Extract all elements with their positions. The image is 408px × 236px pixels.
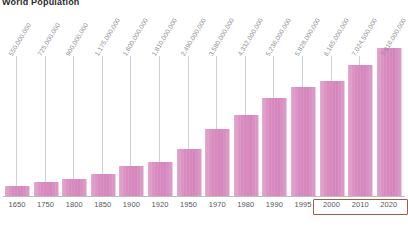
leader-line [359, 56, 360, 65]
leader-line [130, 56, 131, 166]
leader-line [216, 56, 217, 129]
leader-line [188, 56, 189, 149]
x-axis-label-1990: 1990 [259, 200, 289, 209]
leader-line [245, 56, 246, 115]
x-axis-label-1850: 1850 [88, 200, 118, 209]
leader-line [159, 56, 160, 162]
x-axis-label-1970: 1970 [202, 200, 232, 209]
x-axis-label-1750: 1750 [31, 200, 61, 209]
leader-line [45, 56, 46, 182]
bar[interactable] [34, 182, 58, 196]
x-axis-label-2000: 2000 [317, 200, 347, 209]
bar[interactable] [377, 48, 401, 196]
bar[interactable] [234, 115, 258, 196]
leader-line [73, 56, 74, 179]
leader-line [302, 56, 303, 87]
bar[interactable] [119, 166, 143, 196]
bar[interactable] [205, 129, 229, 196]
x-axis-label-2020: 2020 [374, 200, 404, 209]
x-axis-label-1920: 1920 [145, 200, 175, 209]
bar[interactable] [91, 174, 115, 196]
x-axis-label-1900: 1900 [116, 200, 146, 209]
bar[interactable] [291, 87, 315, 196]
bar[interactable] [177, 149, 201, 196]
bar[interactable] [5, 186, 29, 196]
bar[interactable] [320, 81, 344, 196]
leader-line [273, 56, 274, 98]
bar[interactable] [148, 162, 172, 196]
x-axis-label-1950: 1950 [174, 200, 204, 209]
x-axis-label-1995: 1995 [288, 200, 318, 209]
x-axis-label-1800: 1800 [59, 200, 89, 209]
leader-line [102, 56, 103, 174]
x-axis-label-1980: 1980 [231, 200, 261, 209]
x-axis-baseline [3, 196, 405, 197]
x-axis-label-1650: 1650 [2, 200, 32, 209]
bar-chart: 1650175018001850190019201950197019801990… [0, 0, 408, 236]
leader-line [331, 56, 332, 81]
bar[interactable] [348, 65, 372, 196]
leader-line [16, 56, 17, 186]
bar[interactable] [62, 179, 86, 196]
x-axis-label-2010: 2010 [345, 200, 375, 209]
bar[interactable] [262, 98, 286, 196]
